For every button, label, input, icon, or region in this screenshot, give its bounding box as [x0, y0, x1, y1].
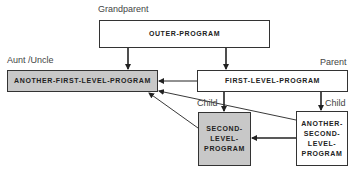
first-level-program-text: FIRST-LEVEL-PROGRAM: [225, 76, 320, 86]
another-first-level-program-box: ANOTHER-FIRST-LEVEL-PROGRAM: [7, 70, 158, 92]
another-second-level-program-text: ANOTHER- SECOND- LEVEL- PROGRAM: [301, 119, 343, 159]
aunt-uncle-label: Aunt /Uncle: [7, 55, 54, 65]
another-second-level-program-box: ANOTHER- SECOND- LEVEL- PROGRAM: [296, 111, 348, 166]
child-label-left: Child: [197, 98, 218, 108]
arrow-second-to-aunt: [149, 93, 198, 128]
outer-program-box: OUTER-PROGRAM: [99, 20, 270, 48]
second-level-program-text: SECOND- LEVEL- PROGRAM: [204, 124, 245, 154]
outer-program-text: OUTER-PROGRAM: [149, 29, 220, 39]
child-label-right: Child: [325, 98, 346, 108]
grandparent-label: Grandparent: [98, 4, 149, 14]
second-level-program-box: SECOND- LEVEL- PROGRAM: [198, 112, 251, 166]
another-first-level-program-text: ANOTHER-FIRST-LEVEL-PROGRAM: [14, 76, 151, 86]
parent-label: Parent: [320, 57, 347, 67]
first-level-program-box: FIRST-LEVEL-PROGRAM: [197, 70, 348, 92]
